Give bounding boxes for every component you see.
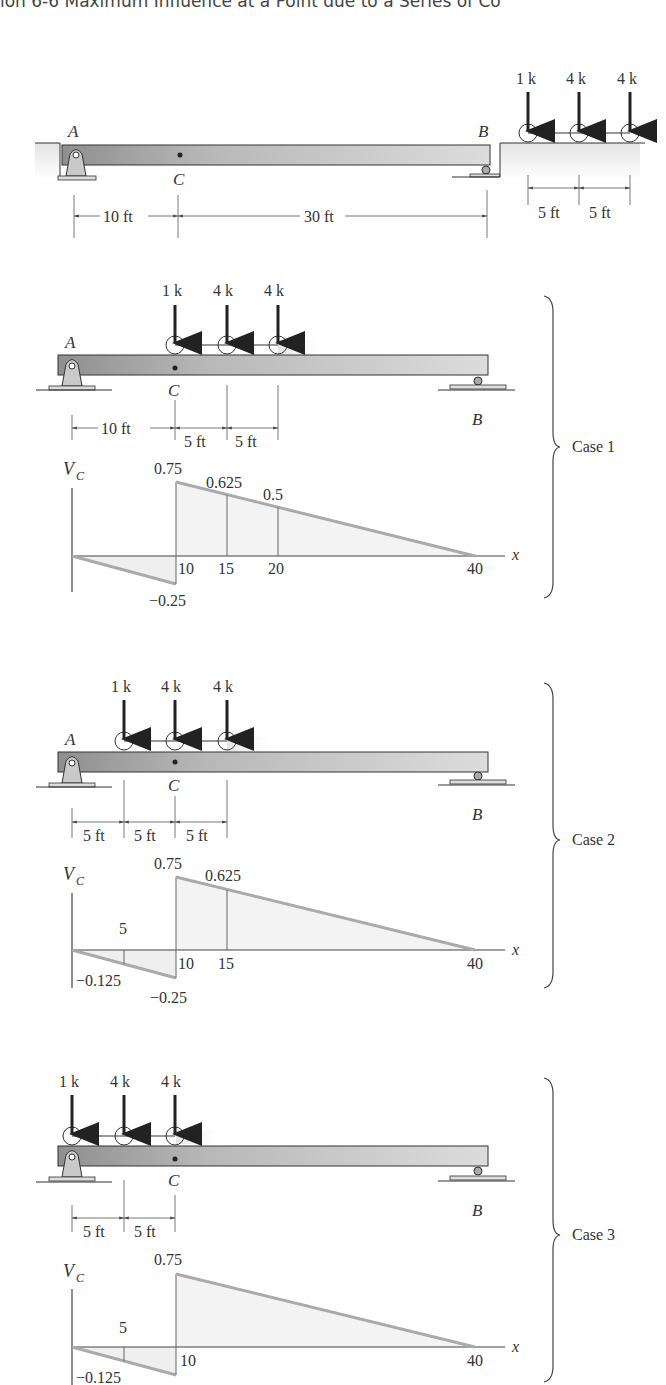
load-2: 4 k xyxy=(213,282,236,354)
svg-text:0.75: 0.75 xyxy=(154,1251,182,1268)
svg-text:10: 10 xyxy=(178,955,194,972)
svg-text:C: C xyxy=(76,1271,85,1285)
svg-text:x: x xyxy=(511,941,519,958)
svg-text:40: 40 xyxy=(467,560,483,577)
svg-text:4 k: 4 k xyxy=(264,282,284,299)
dim-10ft: 10 ft xyxy=(103,208,133,225)
svg-text:1 k: 1 k xyxy=(516,70,536,87)
brace-icon xyxy=(544,1078,560,1382)
case-label: Case 2 xyxy=(572,831,615,848)
svg-text:15: 15 xyxy=(218,955,234,972)
dim-5ft-b: 5 ft xyxy=(589,204,611,221)
label-b: B xyxy=(478,122,489,141)
dim-5ft-a: 5 ft xyxy=(538,204,560,221)
svg-text:5 ft: 5 ft xyxy=(235,433,257,450)
svg-text:C: C xyxy=(168,1171,180,1190)
svg-text:V: V xyxy=(63,459,76,479)
svg-text:0.75: 0.75 xyxy=(154,855,182,872)
svg-text:C: C xyxy=(168,776,180,795)
load-3: 4 k xyxy=(617,70,639,142)
svg-text:5: 5 xyxy=(119,920,127,937)
load-2: 4 k xyxy=(566,70,588,142)
svg-text:x: x xyxy=(511,1338,519,1355)
influence-line-figure: A C B 1 k 4 k 4 k xyxy=(0,0,666,1385)
load-1: 1 k xyxy=(516,70,537,142)
brace-icon xyxy=(544,683,560,988)
svg-text:0.625: 0.625 xyxy=(205,867,241,884)
load-2: 4 k xyxy=(110,1073,133,1145)
svg-text:−0.125: −0.125 xyxy=(76,1369,121,1385)
svg-text:1 k: 1 k xyxy=(111,678,131,695)
svg-text:1 k: 1 k xyxy=(59,1073,79,1090)
svg-text:20: 20 xyxy=(268,560,284,577)
case-3: C B 1 k 4 k 4 k 5 ft xyxy=(36,1073,615,1385)
svg-text:5 ft: 5 ft xyxy=(83,827,105,844)
roller-support-icon xyxy=(438,377,515,390)
svg-text:10: 10 xyxy=(180,1352,196,1369)
svg-text:A: A xyxy=(64,333,76,352)
svg-text:4 k: 4 k xyxy=(213,678,233,695)
case-label: Case 3 xyxy=(572,1226,615,1243)
dim-30ft: 30 ft xyxy=(304,208,334,225)
label-a: A xyxy=(67,122,79,141)
svg-text:0.5: 0.5 xyxy=(263,486,283,503)
svg-text:V: V xyxy=(63,864,76,884)
svg-text:4 k: 4 k xyxy=(566,70,586,87)
svg-text:V: V xyxy=(63,1261,76,1281)
svg-text:4 k: 4 k xyxy=(213,282,233,299)
svg-text:5 ft: 5 ft xyxy=(134,827,156,844)
svg-text:B: B xyxy=(472,805,483,824)
svg-text:5 ft: 5 ft xyxy=(83,1223,105,1240)
load-1: 1 k xyxy=(111,678,133,750)
svg-text:B: B xyxy=(472,1201,483,1220)
case-label: Case 1 xyxy=(572,438,615,455)
svg-text:4 k: 4 k xyxy=(161,1073,181,1090)
svg-text:−0.125: −0.125 xyxy=(76,972,121,989)
load-1: 1 k xyxy=(162,282,184,354)
load-1: 1 k xyxy=(59,1073,81,1145)
case-2: A C B 1 k 4 k 4 k xyxy=(36,678,615,1006)
svg-text:5 ft: 5 ft xyxy=(184,433,206,450)
svg-text:1 k: 1 k xyxy=(162,282,182,299)
roller-support-icon xyxy=(452,166,500,177)
influence-line-case-3 xyxy=(72,1274,505,1385)
svg-text:40: 40 xyxy=(467,955,483,972)
roller-support-icon xyxy=(438,772,515,785)
roller-support-icon xyxy=(438,1167,515,1181)
svg-text:−0.25: −0.25 xyxy=(150,989,187,1006)
load-2: 4 k xyxy=(161,678,184,750)
svg-text:40: 40 xyxy=(467,1352,483,1369)
svg-text:5: 5 xyxy=(119,1319,127,1336)
case-1: A C B 1 k 4 k 4 k xyxy=(36,282,615,609)
label-c: C xyxy=(173,170,185,189)
svg-text:0.625: 0.625 xyxy=(206,474,242,491)
svg-text:5 ft: 5 ft xyxy=(186,827,208,844)
svg-text:10 ft: 10 ft xyxy=(101,420,131,437)
top-figure: A C B 1 k 4 k 4 k xyxy=(35,70,645,238)
svg-text:4 k: 4 k xyxy=(617,70,637,87)
svg-text:C: C xyxy=(76,874,85,888)
svg-text:A: A xyxy=(64,730,76,749)
brace-icon xyxy=(544,296,560,598)
svg-text:B: B xyxy=(472,410,483,429)
influence-line-case-2 xyxy=(72,877,505,988)
svg-text:x: x xyxy=(511,546,519,563)
point-c xyxy=(178,153,183,158)
svg-text:4 k: 4 k xyxy=(110,1073,130,1090)
svg-text:C: C xyxy=(168,381,180,400)
svg-text:4 k: 4 k xyxy=(161,678,181,695)
svg-text:0.75: 0.75 xyxy=(154,460,182,477)
svg-text:−0.25: −0.25 xyxy=(149,592,186,609)
svg-text:15: 15 xyxy=(218,560,234,577)
svg-text:5 ft: 5 ft xyxy=(134,1223,156,1240)
svg-text:10: 10 xyxy=(178,560,194,577)
beam xyxy=(62,145,490,165)
influence-line-case-1 xyxy=(72,482,505,592)
svg-text:C: C xyxy=(76,469,85,483)
